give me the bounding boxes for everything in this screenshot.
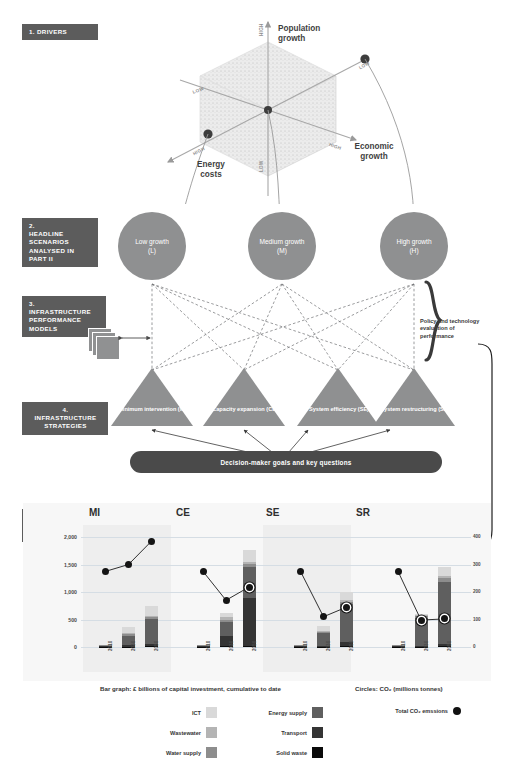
axis-label-economic: Economic growth [348, 142, 400, 161]
legend-caption-bars: Bar graph: £ billions of capital investm… [100, 685, 281, 692]
section-label-drivers: 1.DRIVERS [22, 24, 98, 40]
scenario-code: (H) [396, 246, 431, 255]
tick-population-high: HIGH [259, 23, 264, 36]
legend-label: Energy supply [245, 710, 307, 716]
axis-label-energy: Energy costs [188, 160, 234, 179]
x-tick-label: 2010 [108, 641, 113, 651]
y-tick-label-right: 100 [473, 617, 493, 622]
x-tick-label: 2030 [326, 641, 331, 651]
strategy-triangle-ce [203, 368, 285, 426]
strategy-triangle-mi [111, 368, 193, 426]
y-tick-label-right: 0 [473, 644, 493, 649]
scenario-circle-high[interactable]: High growth (H) [380, 212, 448, 280]
legend-item-energy-supply[interactable]: Energy supply [245, 707, 323, 718]
x-tick-label: 2030 [229, 641, 234, 651]
legend-swatch-ict [206, 707, 217, 718]
y-tick-label: 1,000 [51, 589, 77, 595]
x-tick-label: 2010 [303, 641, 308, 651]
drivers-cube-diagram: Population growth Economic growth Energy… [160, 14, 510, 199]
x-tick-label: 2050 [447, 641, 452, 651]
section-number: 2. [29, 222, 37, 230]
section-text: HEADLINE SCENARIOS ANALYSED IN PART II [29, 230, 87, 263]
connector-high-to-high [365, 59, 414, 204]
x-tick-label: 2010 [206, 641, 211, 651]
x-tick-label: 2030 [131, 641, 136, 651]
x-tick-label: 2010 [401, 641, 406, 651]
co2-data-point[interactable] [395, 568, 402, 575]
scenario-name: Low growth [135, 237, 169, 246]
legend-caption-circles: Circles: CO₂ (millions tonnes) [355, 685, 443, 692]
panel-title-se: SE [266, 507, 279, 518]
strategy-triangle-se [297, 368, 379, 426]
legend-item-solid-waste[interactable]: Solid waste [245, 747, 323, 758]
legend-label: Transport [245, 730, 307, 736]
legend-label: Solid waste [245, 750, 307, 756]
legend-item-ict[interactable]: ICT [143, 707, 217, 718]
section-label-scenarios: 2.HEADLINE SCENARIOS ANALYSED IN PART II [22, 218, 98, 267]
panel-title-mi: MI [89, 507, 100, 518]
legend-label: Total CO₂ emssions [370, 708, 448, 714]
legend-swatch-water-supply [206, 747, 217, 758]
legend-label: ICT [143, 710, 201, 716]
x-tick-label: 2050 [252, 641, 257, 651]
y-tick-label: 1,500 [51, 562, 77, 568]
scenario-name: High growth [396, 237, 431, 246]
y-tick-label: 500 [51, 617, 77, 623]
chart-plot-area [81, 537, 471, 647]
co2-line-SR [81, 537, 471, 647]
co2-data-point[interactable] [441, 615, 448, 622]
x-tick-label: 2050 [154, 641, 159, 651]
scenario-strategy-links [152, 284, 414, 370]
y-tick-label: 0 [51, 644, 77, 650]
decision-maker-bar[interactable]: Decision-maker goals and key questions [130, 451, 442, 473]
legend-label: Water supply [143, 750, 201, 756]
scenario-circle-medium[interactable]: Medium growth (M) [248, 212, 316, 280]
x-tick-label: 2050 [349, 641, 354, 651]
y-tick-label: 2,000 [51, 534, 77, 540]
chart-legend: Bar graph: £ billions of capital investm… [0, 683, 515, 761]
legend-swatch-energy-supply [312, 707, 323, 718]
total-co2-dot-icon [453, 707, 461, 715]
performance-chart: MI CE SE SR 05001,0001,5002,000 01002003… [23, 503, 491, 681]
axis-label-population: Population growth [278, 24, 334, 43]
y-tick-label-right: 300 [473, 562, 493, 567]
x-tick-label: 2030 [424, 641, 429, 651]
co2-data-point[interactable] [418, 617, 425, 624]
panel-title-sr: SR [356, 507, 370, 518]
legend-item-water-supply[interactable]: Water supply [143, 747, 217, 758]
legend-item-total-co2[interactable]: Total CO₂ emssions [370, 707, 461, 715]
panel-title-ce: CE [176, 507, 190, 518]
legend-swatch-solid-waste [312, 747, 323, 758]
y-tick-label-right: 200 [473, 589, 493, 594]
y-tick-label-right: 400 [473, 534, 493, 539]
legend-item-wastewater[interactable]: Wastewater [143, 727, 217, 738]
tick-population-low: LOW [259, 160, 264, 172]
scenario-code: (M) [259, 246, 304, 255]
strategy-label-se: System efficiency (SE) [302, 406, 376, 413]
chart-gridline [81, 647, 471, 648]
section-number: 1. [29, 28, 37, 36]
legend-label: Wastewater [143, 730, 201, 736]
infographic-canvas: 1.DRIVERS [0, 0, 515, 764]
scenario-code: (L) [135, 246, 169, 255]
legend-item-transport[interactable]: Transport [245, 727, 323, 738]
strategy-triangle-sr [373, 368, 455, 426]
scenario-name: Medium growth [259, 237, 304, 246]
strategy-label-sr: System restructuring (SR) [378, 406, 452, 413]
strategy-label-ce: Capacity expansion (CE) [208, 406, 282, 413]
section-text: DRIVERS [37, 28, 67, 36]
strategy-label-mi: Minimum intervention (MI) [116, 406, 190, 413]
legend-swatch-wastewater [206, 727, 217, 738]
legend-swatch-transport [312, 727, 323, 738]
scenario-circle-low[interactable]: Low growth (L) [118, 212, 186, 280]
